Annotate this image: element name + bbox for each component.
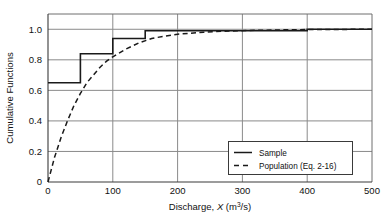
x-tick-label-400: 400 — [299, 185, 315, 196]
y-tick-label-0.2: 0.2 — [29, 146, 42, 157]
x-tick-label-100: 100 — [105, 185, 121, 196]
legend-label-population: Population (Eq. 2-16) — [259, 162, 337, 171]
y-axis-title: Cumulative Functions — [4, 52, 15, 144]
legend: Sample Population (Eq. 2-16) — [229, 142, 353, 175]
x-axis-title-prefix: Discharge, — [169, 201, 217, 212]
y-tick-label-1.0: 1.0 — [29, 24, 42, 35]
y-tick-label-0.8: 0.8 — [29, 54, 42, 65]
legend-label-sample: Sample — [259, 149, 287, 158]
figure-container: 1.0 0.8 0.6 0.4 0.2 0 0 100 200 300 400 … — [0, 0, 389, 220]
y-tick-label-0.4: 0.4 — [29, 115, 42, 126]
x-tick-label-200: 200 — [170, 185, 186, 196]
x-tick-label-300: 300 — [234, 185, 250, 196]
x-axis-title-unit-close: /s) — [241, 201, 252, 212]
x-axis-title-unit-open: (m — [223, 201, 237, 212]
x-tick-label-500: 500 — [364, 185, 380, 196]
cumulative-distribution-chart: 1.0 0.8 0.6 0.4 0.2 0 0 100 200 300 400 … — [0, 0, 389, 220]
x-tick-label-0: 0 — [45, 185, 50, 196]
y-tick-label-0.6: 0.6 — [29, 85, 42, 96]
y-tick-label-0: 0 — [37, 176, 42, 187]
